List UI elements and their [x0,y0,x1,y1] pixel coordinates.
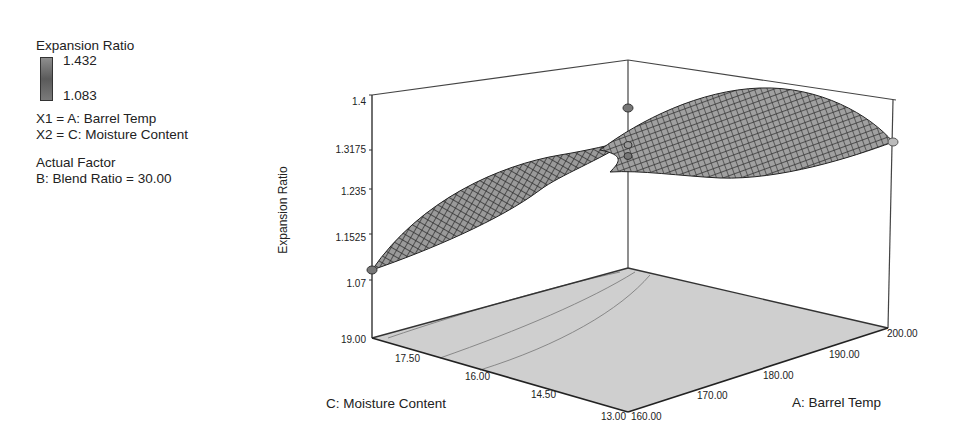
response-surface-left [372,140,630,270]
z-tick: 1.3175 [335,144,366,155]
z-axis-label: Expansion Ratio [276,166,290,254]
c-tick: 13.00 [601,411,626,422]
c-tick: 17.50 [395,353,420,364]
surface-plot: 1.4 1.3175 1.235 1.1525 1.07 Expansion R… [0,0,969,445]
c-tick: 19.00 [341,334,366,345]
design-point [623,104,633,112]
response-surface-right [600,88,893,178]
a-tick: 190.00 [829,349,860,360]
a-tick: 170.00 [697,390,728,401]
design-point [624,153,632,160]
z-tick: 1.4 [352,96,366,107]
design-point [888,138,898,146]
z-tick: 1.07 [347,278,367,289]
a-tick: 160.00 [631,411,662,422]
c-tick: 14.50 [531,389,556,400]
a-tick: 200.00 [887,328,918,339]
z-tick: 1.235 [341,186,366,197]
c-tick: 16.00 [465,371,490,382]
design-point [624,142,632,149]
a-tick: 180.00 [763,370,794,381]
z-axis: 1.4 1.3175 1.235 1.1525 1.07 Expansion R… [276,95,372,289]
z-tick: 1.1525 [335,232,366,243]
c-axis-label: C: Moisture Content [326,396,446,411]
floor-plane [372,268,888,412]
a-axis-label: A: Barrel Temp [792,395,881,410]
design-point [367,266,377,274]
